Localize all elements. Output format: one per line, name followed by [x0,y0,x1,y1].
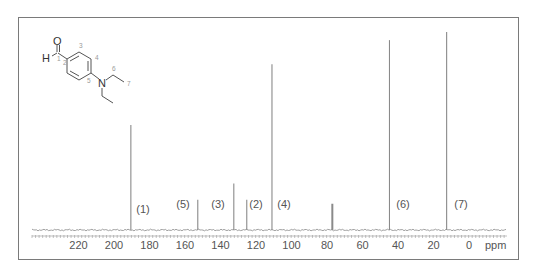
peak-label: (5) [176,198,189,210]
tick-label-0: 0 [466,239,472,251]
tick-label-160: 160 [176,239,194,251]
peak-labels: (1)(5)(3)(2)(4)(6)(7) [136,198,467,215]
nmr-spectrum-plot: O H N 1 2 3 4 5 6 7 (1)(5)(3)(2)(4)(6)(7… [0,0,535,274]
position-6-label: 6 [112,65,116,72]
tick-label-200: 200 [105,239,123,251]
tick-label-60: 60 [356,239,368,251]
position-7-label: 7 [127,80,131,87]
axis-unit-label: ppm [485,239,506,251]
tick-label-180: 180 [140,239,158,251]
tick-label-20: 20 [427,239,439,251]
axis-tick-labels: 220200180160140120100806040200 [69,239,472,251]
tick-label-40: 40 [392,239,404,251]
position-3-label: 3 [79,42,83,49]
hydrogen-atom-label: H [42,52,50,64]
peak-label: (6) [396,198,409,210]
position-5-label: 5 [87,77,91,84]
nitrogen-atom-label: N [98,77,106,89]
position-2-label: 2 [63,59,67,66]
tick-label-140: 140 [211,239,229,251]
tick-label-80: 80 [321,239,333,251]
position-1-label: 1 [57,55,61,62]
spectrum-baseline [32,229,506,231]
tick-label-120: 120 [247,239,265,251]
peak-label: (4) [277,198,290,210]
tick-label-220: 220 [69,239,87,251]
oxygen-atom-label: O [53,35,62,47]
peak-label: (2) [249,198,262,210]
peak-label: (7) [454,198,467,210]
position-4-label: 4 [95,54,99,61]
peak-label: (1) [136,203,149,215]
molecule-structure [52,45,124,103]
ppm-axis [32,235,507,238]
peak-label: (3) [211,198,224,210]
tick-label-100: 100 [282,239,300,251]
